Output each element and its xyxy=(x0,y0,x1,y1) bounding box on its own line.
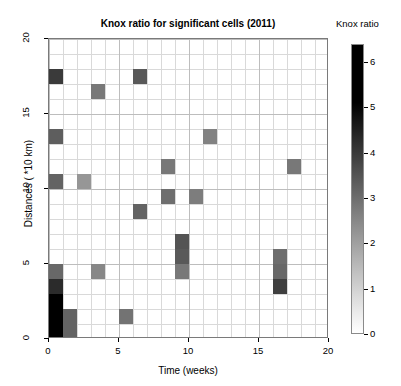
x-tick-label: 20 xyxy=(313,345,343,356)
x-tick-mark xyxy=(48,338,49,342)
colorbar-tick-mark xyxy=(364,198,368,199)
heatmap-cell xyxy=(287,159,301,174)
heatmap-cell xyxy=(161,189,175,204)
x-tick-label: 15 xyxy=(243,345,273,356)
heatmap-cell xyxy=(49,69,63,84)
heatmap-cell xyxy=(49,324,63,338)
y-tick-mark xyxy=(44,263,48,264)
heatmap-cell xyxy=(189,189,203,204)
colorbar-gradient xyxy=(351,44,364,334)
heatmap-cells xyxy=(49,39,327,337)
x-tick-mark xyxy=(188,338,189,342)
x-tick-label: 0 xyxy=(33,345,63,356)
y-axis-title: Distances ( *10 km) xyxy=(23,34,34,334)
heatmap-plot-area xyxy=(48,38,328,338)
colorbar-tick-label: 5 xyxy=(370,101,375,112)
colorbar-tick-label: 3 xyxy=(370,192,375,203)
colorbar-tick-mark xyxy=(364,153,368,154)
heatmap-cell xyxy=(91,264,105,279)
heatmap-cell xyxy=(161,159,175,174)
colorbar-tick-mark xyxy=(364,289,368,290)
heatmap-cell xyxy=(175,249,189,264)
colorbar-tick-label: 2 xyxy=(370,237,375,248)
heatmap-cell xyxy=(133,69,147,84)
x-tick-mark xyxy=(258,338,259,342)
x-tick-mark xyxy=(118,338,119,342)
y-tick-mark xyxy=(44,113,48,114)
y-tick-mark xyxy=(44,338,48,339)
colorbar-tick-mark xyxy=(364,107,368,108)
colorbar-tick-mark xyxy=(364,243,368,244)
heatmap-cell xyxy=(273,249,287,264)
colorbar-tick-mark xyxy=(364,334,368,335)
colorbar-tick-label: 6 xyxy=(370,56,375,67)
colorbar-title: Knox ratio xyxy=(336,18,379,29)
heatmap-cell xyxy=(133,204,147,219)
x-tick-mark xyxy=(328,338,329,342)
heatmap-cell xyxy=(175,264,189,279)
heatmap-cell xyxy=(49,279,63,294)
x-tick-label: 10 xyxy=(173,345,203,356)
heatmap-cell xyxy=(63,324,77,338)
heatmap-cell xyxy=(77,174,91,189)
heatmap-cell xyxy=(49,264,63,279)
heatmap-cell xyxy=(49,309,63,324)
colorbar-tick-mark xyxy=(364,62,368,63)
chart-root: Knox ratio for significant cells (2011) … xyxy=(0,0,401,386)
heatmap-cell xyxy=(91,84,105,99)
heatmap-cell xyxy=(49,129,63,144)
heatmap-cell xyxy=(119,309,133,324)
heatmap-cell xyxy=(203,129,217,144)
heatmap-cell xyxy=(49,294,63,309)
heatmap-cell xyxy=(273,279,287,294)
y-tick-mark xyxy=(44,188,48,189)
y-tick-mark xyxy=(44,38,48,39)
x-axis-title: Time (weeks) xyxy=(48,365,328,376)
colorbar-tick-label: 0 xyxy=(370,328,375,339)
heatmap-cell xyxy=(175,234,189,249)
colorbar-tick-label: 4 xyxy=(370,147,375,158)
heatmap-cell xyxy=(63,309,77,324)
heatmap-cell xyxy=(49,174,63,189)
x-tick-label: 5 xyxy=(103,345,133,356)
heatmap-cell xyxy=(273,264,287,279)
colorbar-tick-label: 1 xyxy=(370,283,375,294)
chart-title: Knox ratio for significant cells (2011) xyxy=(48,18,328,29)
